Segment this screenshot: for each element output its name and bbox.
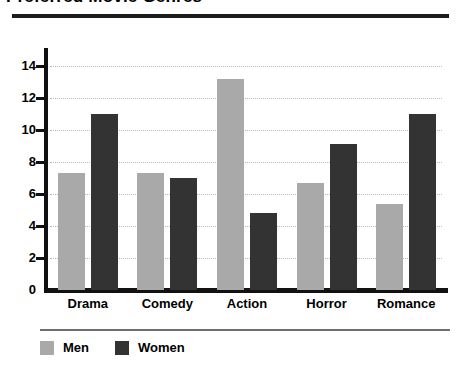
- bar-horror-men: [297, 183, 324, 290]
- y-tick-label: 6: [6, 187, 36, 200]
- bar-comedy-women: [170, 178, 197, 290]
- legend-item-men[interactable]: Men: [40, 340, 89, 355]
- x-label-drama: Drama: [48, 296, 128, 311]
- y-tick-label: 12: [6, 91, 36, 104]
- y-tick-label: 10: [6, 123, 36, 136]
- legend-item-women[interactable]: Women: [115, 340, 185, 355]
- legend-swatch-icon: [115, 341, 129, 355]
- bar-horror-women: [330, 144, 357, 290]
- bars-layer: [48, 50, 446, 290]
- y-tick-mark: [36, 257, 45, 260]
- bar-romance-men: [376, 204, 403, 290]
- x-label-horror: Horror: [287, 296, 367, 311]
- bar-drama-women: [91, 114, 118, 290]
- y-tick-label: 14: [6, 59, 36, 72]
- bar-drama-men: [58, 173, 85, 290]
- y-tick-label: 4: [6, 219, 36, 232]
- y-tick-mark: [36, 97, 45, 100]
- x-label-comedy: Comedy: [128, 296, 208, 311]
- bar-romance-women: [409, 114, 436, 290]
- legend-label: Women: [138, 340, 185, 355]
- y-tick-label: 0: [6, 283, 36, 296]
- legend-swatch-icon: [40, 341, 54, 355]
- bar-action-women: [250, 213, 277, 290]
- x-axis-tick-labels: DramaComedyActionHorrorRomance: [48, 296, 446, 316]
- bar-action-men: [217, 79, 244, 290]
- bar-comedy-men: [137, 173, 164, 290]
- y-tick-mark: [36, 65, 45, 68]
- y-tick-mark: [36, 129, 45, 132]
- y-tick-mark: [36, 161, 45, 164]
- y-axis-tick-labels: 02468101214: [0, 0, 36, 365]
- x-label-action: Action: [207, 296, 287, 311]
- y-tick-mark: [36, 193, 45, 196]
- title-divider: [12, 14, 449, 18]
- x-label-romance: Romance: [366, 296, 446, 311]
- chart-legend: MenWomen: [40, 340, 185, 355]
- y-tick-label: 2: [6, 251, 36, 264]
- y-tick-mark: [36, 225, 45, 228]
- y-tick-label: 8: [6, 155, 36, 168]
- legend-label: Men: [63, 340, 89, 355]
- legend-divider: [40, 329, 450, 331]
